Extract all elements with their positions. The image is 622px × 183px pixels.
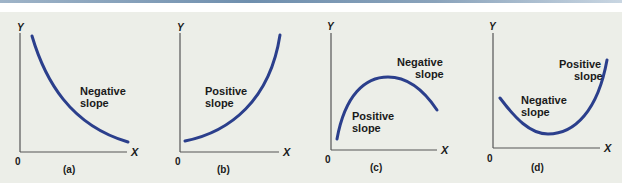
origin-label: 0	[15, 156, 21, 167]
panel-d: Y X 0 (d) Positive slope Negative slope	[487, 21, 612, 173]
origin-label: 0	[175, 156, 181, 167]
annotation-positive-line2: slope	[352, 122, 381, 134]
annotation-positive-line1: Positive	[352, 110, 394, 122]
annotation-negative-line1: Negative	[521, 94, 567, 106]
annotation-line1: Negative	[80, 85, 126, 97]
origin-label: 0	[325, 154, 331, 165]
y-axis-label: Y	[17, 22, 25, 33]
x-axis-label: X	[282, 146, 291, 158]
origin-label: 0	[487, 153, 493, 164]
annotation-line2: slope	[205, 97, 234, 109]
x-axis-label: X	[603, 142, 612, 154]
slope-figure: Y X 0 (a) Negative slope Y X 0 (b) Posit…	[0, 0, 622, 183]
panel-caption: (d)	[531, 162, 544, 173]
y-axis-label: Y	[177, 22, 185, 33]
annotation-line2: slope	[80, 97, 109, 109]
annotation-positive-line2: slope	[574, 70, 603, 82]
y-axis-label: Y	[327, 21, 335, 32]
annotation-line1: Positive	[205, 85, 247, 97]
panel-caption: (b)	[217, 164, 230, 175]
panel-c: Y X 0 (c) Negative slope Positive slope	[325, 21, 449, 173]
panel-a: Y X 0 (a) Negative slope	[15, 22, 139, 175]
annotation-negative-line1: Negative	[397, 56, 443, 68]
annotation-positive-line1: Positive	[559, 58, 601, 70]
panel-b: Y X 0 (b) Positive slope	[175, 22, 291, 175]
annotation-negative-line2: slope	[415, 68, 444, 80]
x-axis-label: X	[440, 144, 449, 156]
x-axis-label: X	[130, 146, 139, 158]
y-axis-label: Y	[489, 21, 497, 32]
annotation-negative-line2: slope	[521, 106, 550, 118]
panel-caption: (c)	[370, 162, 382, 173]
panel-caption: (a)	[63, 164, 75, 175]
